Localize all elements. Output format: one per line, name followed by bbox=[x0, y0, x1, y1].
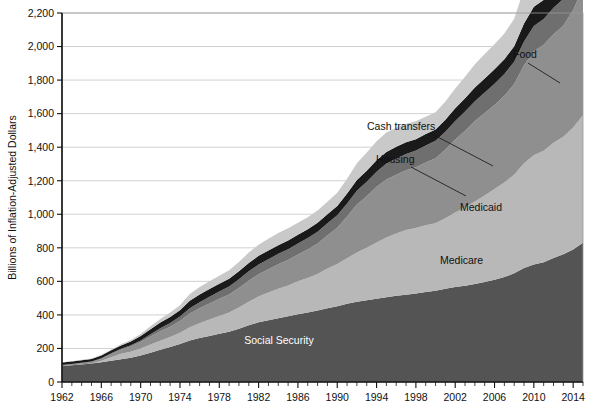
series-label-medicaid: Medicaid bbox=[460, 201, 502, 213]
y-tick-label: 400 bbox=[36, 309, 54, 321]
x-tick-label: 1962 bbox=[50, 391, 74, 403]
x-tick-label: 1986 bbox=[286, 391, 310, 403]
y-axis-title: Billions of Inflation-Adjusted Dollars bbox=[6, 115, 18, 280]
x-tick-label: 1974 bbox=[168, 391, 192, 403]
y-tick-label: 200 bbox=[36, 342, 54, 354]
x-tick-label: 1998 bbox=[404, 391, 428, 403]
y-tick-label: 1,800 bbox=[28, 74, 54, 86]
y-tick-label: 0 bbox=[48, 376, 54, 388]
chart-svg: 02004006008001,0001,2001,4001,6001,8002,… bbox=[0, 0, 600, 414]
x-tick-label: 2002 bbox=[444, 391, 468, 403]
y-tick-label: 1,400 bbox=[28, 141, 54, 153]
y-tick-label: 1,200 bbox=[28, 175, 54, 187]
x-tick-label: 1990 bbox=[326, 391, 350, 403]
series-label-housing: Housing bbox=[376, 153, 415, 165]
y-tick-label: 1,600 bbox=[28, 107, 54, 119]
x-tick-label: 2014 bbox=[561, 391, 585, 403]
series-label-medicare: Medicare bbox=[440, 254, 483, 266]
stacked-area-chart: 02004006008001,0001,2001,4001,6001,8002,… bbox=[0, 0, 600, 414]
y-tick-label: 800 bbox=[36, 242, 54, 254]
y-axis-title-text: Billions of Inflation-Adjusted Dollars bbox=[6, 115, 18, 280]
y-tick-label: 1,000 bbox=[28, 208, 54, 220]
y-tick-label: 2,000 bbox=[28, 40, 54, 52]
series-label-social-security: Social Security bbox=[244, 334, 314, 346]
x-tick-label: 1978 bbox=[208, 391, 232, 403]
series-label-cash-transfers: Cash transfers bbox=[367, 120, 435, 132]
x-tick-label: 2006 bbox=[483, 391, 507, 403]
x-tick-label: 1966 bbox=[90, 391, 114, 403]
x-tick-label: 1994 bbox=[365, 391, 389, 403]
y-tick-label: 2,200 bbox=[28, 7, 54, 19]
x-tick-label: 1982 bbox=[247, 391, 271, 403]
series-label-food: Food bbox=[513, 48, 537, 60]
y-tick-label: 600 bbox=[36, 275, 54, 287]
x-tick-label: 2010 bbox=[522, 391, 546, 403]
x-tick-label: 1970 bbox=[129, 391, 153, 403]
